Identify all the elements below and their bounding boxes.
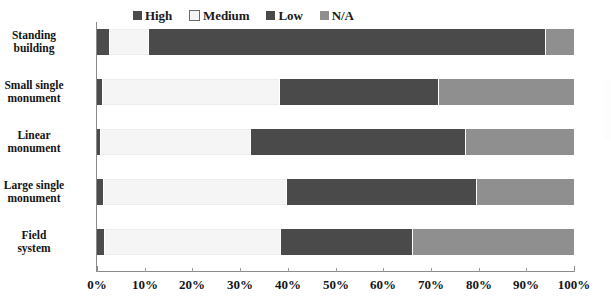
category-label-line1: Standing bbox=[0, 29, 89, 42]
bar-segment-high bbox=[97, 29, 109, 55]
bar-segment-na bbox=[545, 29, 574, 55]
legend-label-medium: Medium bbox=[203, 9, 249, 22]
x-axis-label: 60% bbox=[360, 278, 406, 292]
legend-swatch-medium-icon bbox=[189, 10, 200, 21]
x-axis-label: 90% bbox=[503, 278, 549, 292]
bar-segment-medium bbox=[103, 179, 286, 205]
stacked-bar bbox=[97, 129, 574, 155]
bar-segment-medium bbox=[102, 79, 279, 105]
legend-entry-medium[interactable]: Medium bbox=[189, 9, 249, 22]
category-label-line2: monument bbox=[0, 192, 89, 205]
bar-row bbox=[97, 179, 574, 205]
stacked-bar-chart: High Medium Low N/A StandingbuildingSmal… bbox=[0, 0, 611, 305]
x-axis-tick bbox=[192, 268, 193, 272]
legend-entry-low[interactable]: Low bbox=[266, 9, 302, 22]
stacked-bar bbox=[97, 229, 574, 255]
bar-row bbox=[97, 229, 574, 255]
category-label: Linearmonument bbox=[0, 129, 89, 155]
scan-edge-artifact bbox=[604, 80, 611, 140]
x-axis-tick bbox=[336, 268, 337, 272]
legend-entry-na[interactable]: N/A bbox=[320, 9, 354, 22]
bar-segment-low bbox=[250, 129, 465, 155]
bar-segment-na bbox=[438, 79, 574, 105]
bar-segment-medium bbox=[109, 29, 148, 55]
stacked-bar bbox=[97, 79, 574, 105]
category-label-line2: monument bbox=[0, 92, 89, 105]
bar-segment-medium bbox=[100, 129, 250, 155]
legend-swatch-na-icon bbox=[320, 11, 329, 20]
x-axis-label: 10% bbox=[122, 278, 168, 292]
x-axis-tick bbox=[431, 268, 432, 272]
legend-swatch-high-icon bbox=[133, 11, 142, 20]
category-label-line1: Small single bbox=[0, 79, 89, 92]
bar-segment-high bbox=[97, 229, 104, 255]
x-axis-label: 100% bbox=[551, 278, 597, 292]
category-label: Fieldsystem bbox=[0, 229, 89, 255]
bar-segment-low bbox=[279, 79, 438, 105]
bar-segment-low bbox=[148, 29, 545, 55]
x-axis-tick bbox=[288, 268, 289, 272]
x-axis-label: 0% bbox=[74, 278, 120, 292]
category-label: Large singlemonument bbox=[0, 179, 89, 205]
category-label-line2: building bbox=[0, 42, 89, 55]
category-label-line1: Linear bbox=[0, 129, 89, 142]
x-axis-label: 20% bbox=[169, 278, 215, 292]
legend-label-low: Low bbox=[278, 9, 302, 22]
bar-row bbox=[97, 129, 574, 155]
bar-segment-na bbox=[476, 179, 574, 205]
x-axis-endcap bbox=[574, 266, 575, 271]
legend-label-na: N/A bbox=[332, 9, 354, 22]
category-label-line2: system bbox=[0, 242, 89, 255]
bar-segment-low bbox=[286, 179, 476, 205]
bar-segment-medium bbox=[104, 229, 280, 255]
x-axis-label: 80% bbox=[456, 278, 502, 292]
x-axis-tick bbox=[479, 268, 480, 272]
x-axis-tick bbox=[240, 268, 241, 272]
x-axis-label: 50% bbox=[313, 278, 359, 292]
category-label-line2: monument bbox=[0, 142, 89, 155]
x-axis-tick bbox=[383, 268, 384, 272]
bar-segment-na bbox=[465, 129, 574, 155]
category-label: Standingbuilding bbox=[0, 29, 89, 55]
x-axis-label: 70% bbox=[408, 278, 454, 292]
x-axis-endcap bbox=[97, 266, 98, 271]
x-axis-label: 40% bbox=[265, 278, 311, 292]
x-axis-tick bbox=[526, 268, 527, 272]
stacked-bar bbox=[97, 29, 574, 55]
bar-segment-na bbox=[412, 229, 574, 255]
category-label-line1: Large single bbox=[0, 179, 89, 192]
x-axis-label: 30% bbox=[217, 278, 263, 292]
x-axis-tick bbox=[145, 268, 146, 272]
category-label: Small singlemonument bbox=[0, 79, 89, 105]
bar-row bbox=[97, 29, 574, 55]
bar-segment-low bbox=[280, 229, 412, 255]
legend-entry-high[interactable]: High bbox=[133, 9, 172, 22]
category-label-line1: Field bbox=[0, 229, 89, 242]
stacked-bar bbox=[97, 179, 574, 205]
legend-swatch-low-icon bbox=[266, 11, 275, 20]
bar-row bbox=[97, 79, 574, 105]
legend-label-high: High bbox=[145, 9, 172, 22]
chart-legend: High Medium Low N/A bbox=[133, 7, 354, 23]
